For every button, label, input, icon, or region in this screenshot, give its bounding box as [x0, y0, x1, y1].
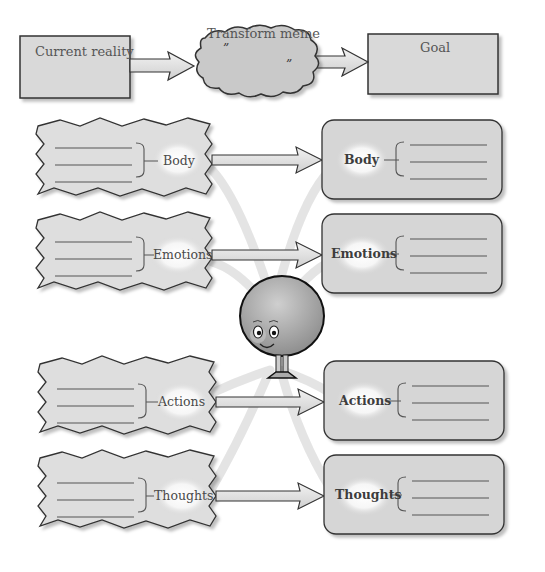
left-thoughts-label: Thoughts [154, 488, 213, 503]
goal-label: Goal [420, 40, 450, 55]
right-rounded-boxes [322, 120, 504, 534]
left-jagged-boxes [36, 118, 216, 528]
left-emotions-label: Emotions [153, 247, 213, 262]
arrow-transform-to-goal [312, 48, 368, 76]
left-body-label: Body [163, 153, 195, 168]
current-reality-label: Current reality [35, 44, 134, 59]
right-actions-label: Actions [339, 393, 391, 408]
left-actions-label: Actions [158, 394, 205, 409]
arrow-current-to-transform [130, 52, 194, 80]
transform-meme-label: Transform meme [207, 26, 320, 41]
close-quote-mark: ” [286, 58, 292, 72]
right-body-label: Body [344, 152, 379, 167]
character-figure [240, 276, 324, 378]
right-emotions-label: Emotions [331, 246, 397, 261]
right-thoughts-label: Thoughts [335, 487, 401, 502]
diagram-canvas [0, 0, 545, 572]
open-quote-mark: ” [223, 42, 229, 56]
